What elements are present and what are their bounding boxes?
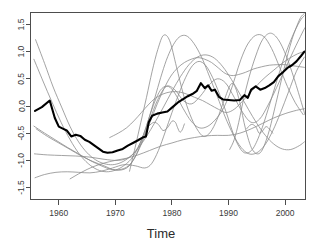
curves-layer xyxy=(34,14,305,179)
x-tick-label: 1980 xyxy=(162,208,181,218)
y-tick-label: 1.5 xyxy=(17,18,27,30)
x-axis-ticks: 19601970198019902000 xyxy=(49,200,295,218)
y-tick-label: -0.5 xyxy=(17,126,27,141)
y-tick-label: 0.5 xyxy=(17,73,27,85)
x-tick-label: 1990 xyxy=(219,208,238,218)
x-tick-label: 2000 xyxy=(276,208,295,218)
plot-frame xyxy=(31,13,306,200)
x-tick-label: 1970 xyxy=(106,208,125,218)
series-line xyxy=(36,58,304,171)
y-axis-ticks: -1.5-1.0-0.50.00.51.01.5 xyxy=(17,18,31,195)
y-tick-label: -1.0 xyxy=(17,153,27,168)
series-line xyxy=(34,28,305,170)
chart-figure: 19601970198019902000 -1.5-1.0-0.50.00.51… xyxy=(0,0,322,250)
series-line-emphasis xyxy=(35,52,304,153)
series-line xyxy=(70,109,304,179)
plot-canvas: 19601970198019902000 -1.5-1.0-0.50.00.51… xyxy=(0,0,322,250)
y-tick-label: -1.5 xyxy=(17,180,27,195)
x-tick-label: 1960 xyxy=(49,208,68,218)
x-axis-title: Time xyxy=(147,226,175,241)
y-tick-label: 0.0 xyxy=(17,100,27,112)
y-tick-label: 1.0 xyxy=(17,45,27,57)
